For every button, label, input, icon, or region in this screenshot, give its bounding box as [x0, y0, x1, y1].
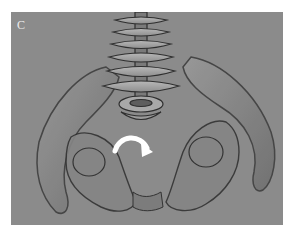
- panel-label: C: [17, 18, 25, 33]
- pelvis-render: [11, 12, 283, 225]
- figure-panel: C: [11, 12, 283, 225]
- spine: [103, 12, 179, 120]
- rotation-arrow-icon: [115, 138, 153, 157]
